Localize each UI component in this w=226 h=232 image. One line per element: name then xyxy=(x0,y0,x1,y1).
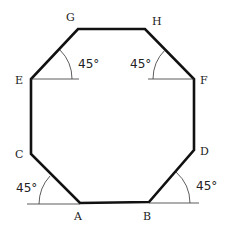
angle-label-b: 45° xyxy=(196,179,217,193)
vertex-label-h: H xyxy=(152,15,162,28)
angle-arc-f xyxy=(153,50,165,79)
angle-arc-a xyxy=(39,176,50,204)
angle-arc-b xyxy=(176,172,190,203)
vertex-label-g: G xyxy=(66,11,75,24)
angle-label-a: 45° xyxy=(16,181,37,195)
octagon-outline xyxy=(31,29,194,203)
vertex-label-f: F xyxy=(200,74,208,87)
angle-label-e: 45° xyxy=(78,57,99,71)
angle-label-f: 45° xyxy=(130,57,151,71)
angle-arc-e xyxy=(60,50,72,79)
vertex-label-e: E xyxy=(15,74,23,87)
vertex-label-d: D xyxy=(200,145,209,158)
vertex-label-c: C xyxy=(15,148,23,161)
vertex-label-a: A xyxy=(73,210,83,223)
vertex-label-b: B xyxy=(143,210,151,223)
octagon-diagram: G H F D B A C E 45° 45° 45° 45° xyxy=(0,0,226,232)
